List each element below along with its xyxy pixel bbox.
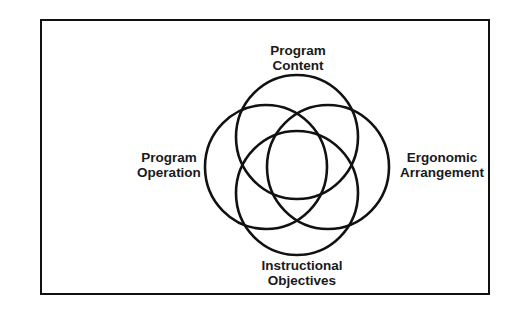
label-line: Instructional (255, 258, 349, 273)
label-ergonomic-arrangement: Ergonomic Arrangement (394, 150, 490, 180)
label-line: Ergonomic (394, 150, 490, 165)
label-line: Operation (134, 165, 204, 180)
label-line: Arrangement (394, 165, 490, 180)
circle-program-content (236, 75, 358, 199)
label-program-operation: Program Operation (134, 150, 204, 180)
label-line: Objectives (255, 273, 349, 288)
label-line: Program (265, 43, 331, 58)
circle-instructional-objectives (236, 131, 358, 255)
label-line: Program (134, 150, 204, 165)
label-instructional-objectives: Instructional Objectives (255, 258, 349, 288)
label-program-content: Program Content (265, 43, 331, 73)
label-line: Content (265, 58, 331, 73)
